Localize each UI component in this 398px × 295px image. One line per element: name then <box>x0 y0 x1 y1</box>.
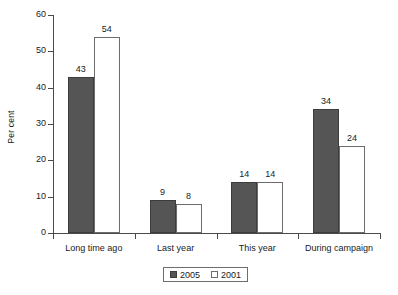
x-axis-category-label: During campaign <box>298 243 380 254</box>
legend-label: 2005 <box>180 270 200 280</box>
bar-2005-this-year <box>231 182 257 233</box>
y-axis-tick-label: 40 <box>20 82 46 92</box>
bar-2005-long-time-ago <box>68 77 94 233</box>
x-axis-tick <box>53 234 54 239</box>
chart-legend: 20052001 <box>163 267 248 282</box>
y-axis-tick-label: 0 <box>20 227 46 237</box>
bar-value-label: 14 <box>251 169 289 179</box>
y-axis-tick-label: 30 <box>20 118 46 128</box>
legend-entry-2001: 2001 <box>211 270 241 280</box>
x-axis-tick <box>298 234 299 239</box>
bar-2005-last-year <box>150 200 176 233</box>
y-axis-tick-label: 10 <box>20 191 46 201</box>
y-axis-title: Per cent <box>4 92 18 162</box>
y-axis-title-text: Per cent <box>6 110 16 143</box>
x-axis-category-label: Last year <box>135 243 217 254</box>
bar-2001-last-year <box>176 204 202 233</box>
plot-area <box>53 15 380 233</box>
legend-swatch-icon <box>170 271 177 278</box>
x-axis-category-label: Long time ago <box>53 243 135 254</box>
bar-2001-long-time-ago <box>94 37 120 233</box>
x-axis-tick <box>217 234 218 239</box>
legend-swatch-icon <box>211 271 218 278</box>
bar-2001-during-campaign <box>339 146 365 233</box>
bar-chart: Per cent 0102030405060 43549814143424 Lo… <box>0 0 398 295</box>
x-axis-tick <box>135 234 136 239</box>
y-axis-tick-label: 60 <box>20 9 46 19</box>
y-axis-tick-label: 50 <box>20 45 46 55</box>
bar-value-label: 34 <box>307 96 345 106</box>
bar-2005-during-campaign <box>313 109 339 233</box>
bar-2001-this-year <box>257 182 283 233</box>
y-axis-tick-label: 20 <box>20 154 46 164</box>
x-axis-category-label: This year <box>217 243 299 254</box>
legend-label: 2001 <box>221 270 241 280</box>
x-axis-tick <box>380 234 381 239</box>
legend-entry-2005: 2005 <box>170 270 200 280</box>
bar-value-label: 54 <box>88 24 126 34</box>
